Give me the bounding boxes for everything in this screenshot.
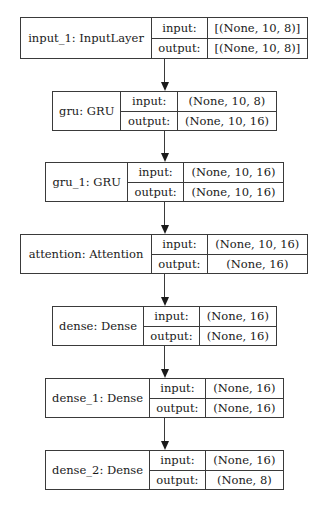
io-values: (None, 10, 16) (None, 16): [208, 235, 307, 273]
layer-node-gru: gru: GRU input: output: (None, 10, 8) (N…: [52, 91, 277, 131]
layer-name: dense_2: Dense: [46, 451, 150, 489]
layer-node-dense_2: dense_2: Dense input: output: (None, 16)…: [45, 450, 284, 490]
input-key: input:: [152, 235, 207, 255]
input-key: input:: [144, 307, 199, 327]
output-shape: (None, 10, 16): [178, 112, 276, 131]
io-keys: input: output:: [152, 235, 208, 273]
arrowhead-icon: [161, 225, 169, 234]
io-keys: input: output:: [150, 379, 206, 417]
io-values: (None, 10, 16) (None, 10, 16): [184, 163, 283, 201]
layer-name: attention: Attention: [21, 235, 152, 273]
edge-line: [164, 418, 165, 442]
output-shape: (None, 10, 16): [184, 183, 283, 202]
layer-node-dense_1: dense_1: Dense input: output: (None, 16)…: [45, 378, 284, 418]
arrowhead-icon: [161, 153, 169, 162]
input-key: input:: [150, 379, 205, 399]
edge-line: [164, 346, 165, 370]
output-shape: [(None, 10, 8)]: [208, 39, 307, 59]
arrowhead-icon: [161, 441, 169, 450]
input-shape: (None, 16): [206, 379, 283, 399]
input-shape: (None, 16): [206, 451, 283, 471]
layer-node-gru_1: gru_1: GRU input: output: (None, 10, 16)…: [45, 162, 284, 202]
layer-node-dense: dense: Dense input: output: (None, 16) (…: [52, 306, 277, 346]
input-key: input:: [128, 163, 183, 183]
io-values: (None, 16) (None, 8): [206, 451, 283, 489]
output-key: output:: [152, 255, 207, 274]
io-keys: input: output:: [144, 307, 200, 345]
input-shape: (None, 10, 16): [208, 235, 307, 255]
input-key: input:: [152, 18, 207, 39]
edge-line: [164, 202, 165, 226]
output-shape: (None, 16): [206, 399, 283, 418]
output-shape: (None, 8): [206, 471, 283, 490]
output-key: output:: [150, 471, 205, 490]
io-values: (None, 16) (None, 16): [206, 379, 283, 417]
output-key: output:: [150, 399, 205, 418]
layer-name: input_1: InputLayer: [21, 18, 152, 58]
layer-name: dense: Dense: [53, 307, 144, 345]
input-shape: [(None, 10, 8)]: [208, 18, 307, 39]
output-key: output:: [144, 327, 199, 346]
io-values: [(None, 10, 8)] [(None, 10, 8)]: [208, 18, 307, 58]
layer-name: gru_1: GRU: [46, 163, 128, 201]
io-values: (None, 16) (None, 16): [200, 307, 276, 345]
arrowhead-icon: [161, 297, 169, 306]
output-shape: (None, 16): [200, 327, 276, 346]
input-key: input:: [150, 451, 205, 471]
edge-line: [164, 131, 165, 154]
edge-line: [164, 274, 165, 298]
io-values: (None, 10, 8) (None, 10, 16): [178, 92, 276, 130]
layer-node-input_1: input_1: InputLayer input: output: [(Non…: [20, 17, 308, 59]
edge-line: [164, 59, 165, 83]
arrowhead-icon: [161, 369, 169, 378]
input-shape: (None, 10, 8): [178, 92, 276, 112]
input-shape: (None, 16): [200, 307, 276, 327]
output-key: output:: [152, 39, 207, 59]
layer-node-attention: attention: Attention input: output: (Non…: [20, 234, 308, 274]
arrowhead-icon: [161, 82, 169, 91]
input-key: input:: [121, 92, 177, 112]
io-keys: input: output:: [152, 18, 208, 58]
io-keys: input: output:: [121, 92, 178, 130]
io-keys: input: output:: [128, 163, 184, 201]
output-key: output:: [121, 112, 177, 131]
output-key: output:: [128, 183, 183, 202]
io-keys: input: output:: [150, 451, 206, 489]
output-shape: (None, 16): [208, 255, 307, 274]
input-shape: (None, 10, 16): [184, 163, 283, 183]
layer-name: gru: GRU: [53, 92, 121, 130]
layer-name: dense_1: Dense: [46, 379, 150, 417]
